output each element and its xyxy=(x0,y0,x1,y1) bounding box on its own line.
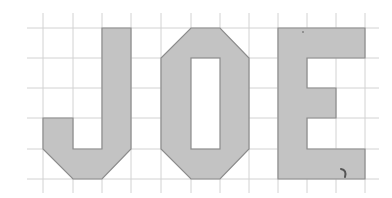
letter-o xyxy=(161,28,249,179)
letter-e xyxy=(278,28,365,179)
letters-group xyxy=(43,28,365,179)
letter-j xyxy=(43,28,131,179)
ink-speck xyxy=(302,31,304,33)
grid-letter-diagram xyxy=(0,0,392,198)
letter-o-hole xyxy=(191,58,220,149)
